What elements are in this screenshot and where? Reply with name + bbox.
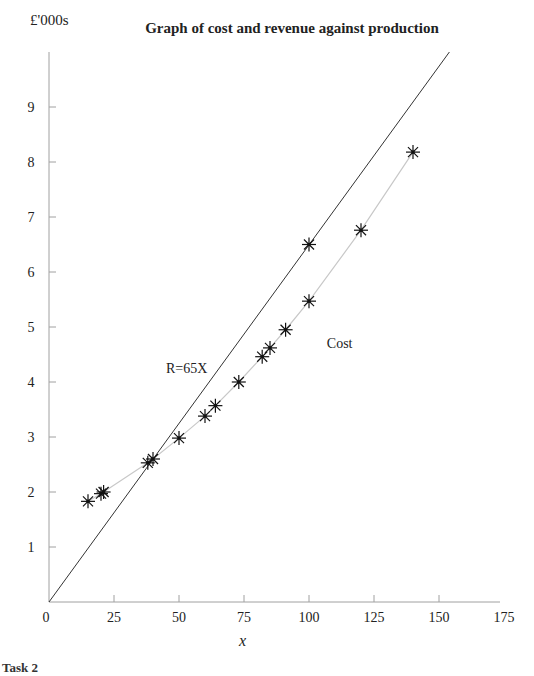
x-tick-label: 175 — [494, 610, 515, 625]
y-tick-label: 8 — [28, 155, 35, 170]
cost-line — [88, 152, 413, 501]
x-tick-label: 50 — [172, 610, 186, 625]
cost-marker-star-icon — [97, 485, 111, 499]
cost-marker-star-icon — [406, 145, 420, 159]
cost-marker-star-icon — [302, 294, 316, 308]
x-tick-label: 150 — [429, 610, 450, 625]
x-tick-label: 100 — [299, 610, 320, 625]
cost-marker-star-icon — [263, 341, 277, 355]
y-tick-label: 9 — [28, 100, 35, 115]
revenue-marker-star-icon — [302, 238, 316, 252]
revenue-line — [49, 52, 449, 602]
cost-marker-star-icon — [354, 223, 368, 237]
x-tick-label: 75 — [237, 610, 251, 625]
x-tick-label: 25 — [107, 610, 121, 625]
cost-marker-star-icon — [208, 399, 222, 413]
y-tick-label: 3 — [28, 430, 35, 445]
revenue-annotation: R=65X — [166, 361, 207, 377]
cost-marker-star-icon — [279, 323, 293, 337]
cost-marker-star-icon — [81, 494, 95, 508]
cost-annotation: Cost — [327, 336, 353, 352]
y-tick-label: 4 — [28, 375, 35, 390]
cost-marker-star-icon — [198, 409, 212, 423]
y-tick-label: 5 — [28, 320, 35, 335]
cost-marker-star-icon — [255, 350, 269, 364]
y-tick-label: 7 — [28, 210, 35, 225]
cost-marker-star-icon — [172, 431, 186, 445]
y-tick-label: 6 — [28, 265, 35, 280]
x-tick-label: 0 — [43, 610, 50, 625]
y-tick-label: 2 — [28, 485, 35, 500]
y-tick-label: 1 — [28, 540, 35, 555]
cost-marker-star-icon — [146, 452, 160, 466]
x-tick-label: 125 — [364, 610, 385, 625]
cut-off-footer-text: Task 2 — [2, 660, 38, 676]
cost-marker-star-icon — [232, 375, 246, 389]
